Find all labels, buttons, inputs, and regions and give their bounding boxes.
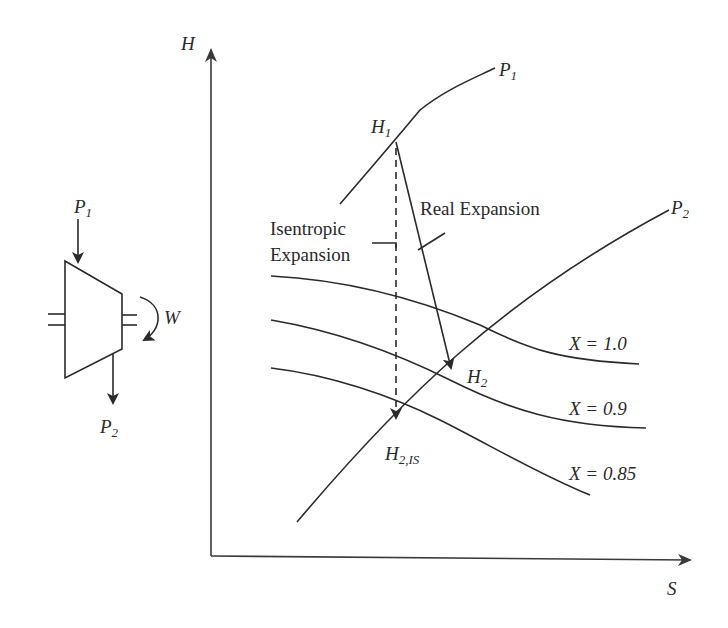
quality-lines: X = 1.0 X = 0.9 X = 0.85 <box>271 276 646 495</box>
isobar-p1-label: P1 <box>498 59 517 83</box>
turbine-inlet-label: P1 <box>73 196 92 220</box>
x-axis <box>211 556 690 560</box>
isentropic-label-line1: Isentropic <box>270 218 346 239</box>
real-expansion-arrow <box>396 142 451 368</box>
point-h2-label: H2 <box>466 366 488 390</box>
isobar-p2-label: P2 <box>670 197 690 221</box>
isentropic-label-line2: Expansion <box>270 244 351 265</box>
y-axis-label: H <box>180 33 196 54</box>
quality-line-1-0-label: X = 1.0 <box>568 333 627 354</box>
point-h2is-label: H2,IS <box>384 443 420 467</box>
work-arrow-icon <box>140 297 158 340</box>
isobar-p1 <box>340 68 495 204</box>
isentropic-leader <box>372 243 396 248</box>
isobars: P1 P2 <box>297 59 690 522</box>
turbine-work-label: W <box>164 307 182 328</box>
x-axis-label: S <box>667 578 677 599</box>
hs-diagram: H S P1 P2 W P1 P2 X = 1.0 X = 0.9 X = 0.… <box>0 0 728 628</box>
axes: H S <box>180 33 690 599</box>
real-expansion-label: Real Expansion <box>420 198 540 219</box>
point-h1-label: H1 <box>370 116 391 140</box>
turbine-outlet-label: P2 <box>99 416 119 440</box>
real-expansion-leader <box>418 233 445 250</box>
turbine-schematic: P1 P2 W <box>48 196 182 440</box>
quality-line-0-85 <box>271 368 590 495</box>
quality-line-0-85-label: X = 0.85 <box>568 463 636 484</box>
quality-line-0-9-label: X = 0.9 <box>568 398 627 419</box>
